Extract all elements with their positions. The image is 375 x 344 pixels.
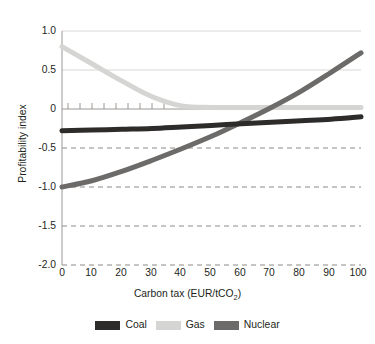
legend-swatch-nuclear: [214, 321, 239, 330]
series-line-gas: [62, 47, 361, 108]
zero-line-tick-marks: [68, 103, 164, 109]
plot-area: [0, 0, 375, 344]
legend-item-gas[interactable]: Gas: [156, 320, 205, 330]
legend-label-gas: Gas: [186, 320, 205, 330]
legend-swatch-gas: [156, 321, 181, 330]
chart-figure: Profitability index 1.0 0.5 0 -0.5 -1.0 …: [0, 0, 375, 344]
gridlines: [62, 31, 361, 265]
chart-legend: Coal Gas Nuclear: [0, 320, 375, 330]
legend-label-nuclear: Nuclear: [244, 320, 280, 330]
legend-item-nuclear[interactable]: Nuclear: [214, 320, 280, 330]
series-line-coal: [62, 117, 361, 131]
legend-item-coal[interactable]: Coal: [95, 320, 146, 330]
legend-swatch-coal: [95, 321, 120, 330]
legend-label-coal: Coal: [125, 320, 146, 330]
